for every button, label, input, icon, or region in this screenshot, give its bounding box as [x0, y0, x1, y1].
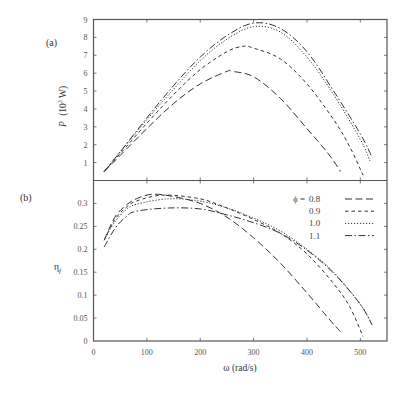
- x-tick-label: 200: [194, 348, 206, 357]
- y-axis-label-power: P (103 W): [57, 86, 69, 128]
- legend: ϕ =0.80.91.01.1: [293, 194, 374, 241]
- y-tick-label: 0.1: [78, 291, 88, 300]
- series-line: [104, 26, 370, 171]
- panel-label-b: (b): [20, 192, 32, 204]
- x-tick-label: 0: [92, 348, 96, 357]
- y-tick-label: 5: [84, 87, 88, 96]
- x-tick-label: 100: [141, 348, 153, 357]
- y-tick-label: 0.15: [74, 268, 88, 277]
- y-tick-label: 6: [84, 69, 88, 78]
- y-tick-label: 0.3: [78, 199, 88, 208]
- panel-b-efficiency: 00.050.10.150.20.250.3: [74, 181, 388, 347]
- y-tick-label: 3: [84, 123, 88, 132]
- y-tick-label: 0: [84, 337, 88, 346]
- x-axis-label: ω (rad/s): [223, 363, 256, 374]
- y-tick-label: 0.25: [74, 222, 88, 231]
- legend-label: 0.9: [309, 206, 321, 216]
- legend-label: 1.0: [309, 218, 321, 228]
- y-tick-label: 1: [84, 159, 88, 168]
- series-line: [104, 70, 340, 171]
- y-tick-label: 7: [84, 51, 88, 60]
- y-tick-label: 4: [84, 105, 88, 114]
- series-line: [104, 23, 372, 172]
- series-line: [104, 195, 363, 336]
- figure: 123456789 00.050.10.150.20.250.3 (a) (b)…: [0, 0, 403, 393]
- legend-prefix: ϕ =: [293, 194, 305, 204]
- svg-text:P (103 W): P (103 W): [57, 86, 69, 128]
- y-tick-label: 8: [84, 33, 88, 42]
- legend-label: 0.8: [309, 194, 321, 204]
- x-tick-label: 400: [301, 348, 313, 357]
- series-line: [104, 46, 363, 175]
- x-tick-label: 500: [354, 348, 366, 357]
- plot-frame: [94, 20, 388, 342]
- y-axis-label-efficiency: ηf: [54, 262, 62, 275]
- panel-label-a: (a): [46, 37, 57, 49]
- series-line: [104, 194, 340, 332]
- y-tick-label: 0.05: [74, 314, 88, 323]
- y-tick-label: 9: [84, 16, 88, 25]
- y-tick-label: 0.2: [78, 245, 88, 254]
- y-tick-label: 2: [84, 141, 88, 150]
- x-tick-label: 300: [248, 348, 260, 357]
- panel-a-power: 123456789: [84, 16, 388, 181]
- legend-label: 1.1: [309, 231, 320, 241]
